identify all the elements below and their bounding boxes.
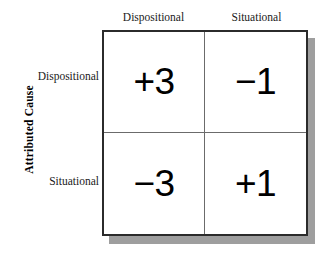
column-header-situational: Situational <box>205 11 308 23</box>
row-header-dispositional: Dispositional <box>9 70 99 82</box>
column-header-dispositional: Dispositional <box>102 11 205 23</box>
matrix-cell-r1c1: +1 <box>205 133 306 234</box>
matrix-grid: +3 −1 −3 +1 <box>102 30 308 236</box>
attribution-matrix-figure: Attributed Cause Dispositional Situation… <box>0 0 322 259</box>
vertical-axis-title: Attributed Cause <box>14 0 44 259</box>
matrix-cell-r0c0: +3 <box>104 32 205 133</box>
matrix-cell-r0c1: −1 <box>205 32 306 133</box>
row-header-situational: Situational <box>9 175 99 187</box>
matrix-cell-r1c0: −3 <box>104 133 205 234</box>
